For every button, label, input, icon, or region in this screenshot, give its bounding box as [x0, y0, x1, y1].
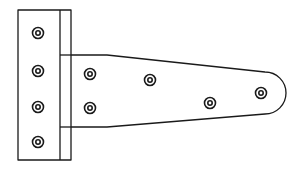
screw-icon — [145, 75, 156, 86]
screw-icon — [33, 28, 44, 39]
hinge-strap — [71, 55, 286, 127]
t-hinge-illustration — [0, 0, 297, 170]
screw-icon — [85, 103, 96, 114]
hinge-drawing — [0, 0, 297, 170]
screw-icon — [256, 88, 267, 99]
screw-icon — [33, 66, 44, 77]
screw-icon — [33, 137, 44, 148]
screw-icon — [85, 69, 96, 80]
hinge-leaf — [18, 10, 71, 160]
screw-icon — [33, 102, 44, 113]
screw-icon — [205, 98, 216, 109]
